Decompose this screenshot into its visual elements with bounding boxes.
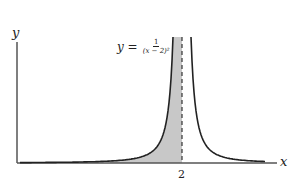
curve-right-branch: [191, 37, 265, 162]
shaded-region: [110, 37, 182, 163]
equation-label: y = 1 (x − 2)²: [117, 38, 170, 55]
plot-area: [0, 0, 299, 184]
x-axis-label: x: [280, 155, 287, 168]
equation-lhs: y =: [117, 40, 138, 54]
equation-denominator: (x − 2)²: [143, 47, 170, 55]
equation-numerator: 1: [153, 38, 159, 47]
curve-left-branch: [20, 37, 173, 163]
x-tick-label-2: 2: [178, 168, 185, 181]
y-axis-label: y: [12, 26, 19, 39]
equation-fraction: 1 (x − 2)²: [143, 38, 170, 55]
